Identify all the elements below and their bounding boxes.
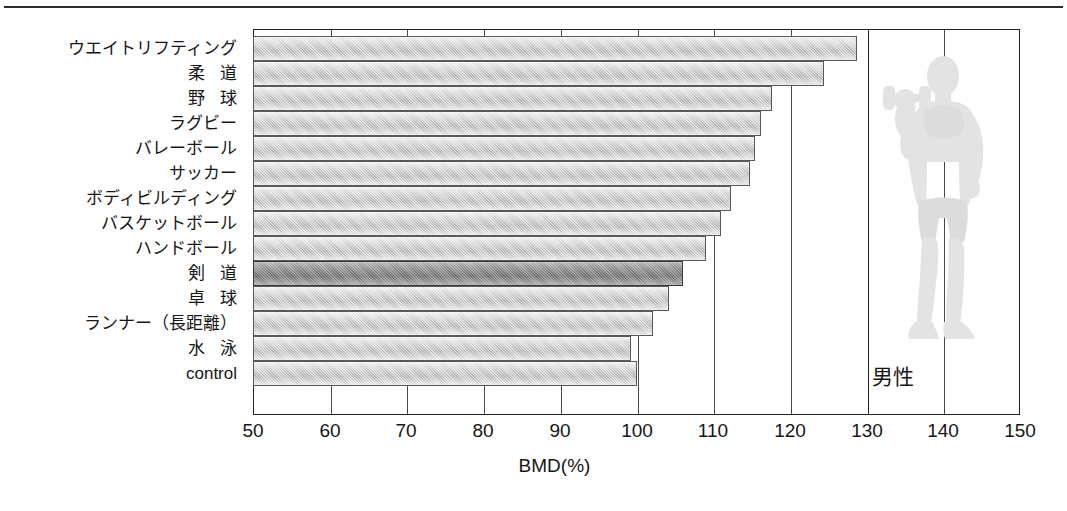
x-axis-title: BMD(%) — [0, 455, 1067, 477]
athlete-illustration-panel — [867, 30, 1019, 414]
x-axis-tick-labels: 5060708090100110120130140150 — [253, 416, 1020, 446]
bar-default — [253, 286, 669, 311]
x-axis-title-text: BMD(%) — [519, 455, 591, 477]
category-label: 卓 球 — [188, 286, 242, 311]
bar-default — [253, 336, 631, 361]
category-label: ボディビルディング — [86, 186, 237, 211]
x-tick-label-140: 140 — [927, 420, 959, 442]
category-label: バレーボール — [135, 136, 237, 161]
chart-page: ウエイトリフティング柔 道野 球ラグビーバレーボールサッカーボディビルディングバ… — [0, 0, 1067, 511]
x-tick-label-110: 110 — [698, 420, 728, 442]
category-label: バスケットボール — [101, 211, 237, 236]
x-tick-label-80: 80 — [472, 420, 493, 442]
category-label: control — [186, 361, 237, 386]
x-tick-label-150: 150 — [1004, 420, 1036, 442]
x-tick-label-130: 130 — [851, 420, 883, 442]
category-label: 柔 道 — [188, 61, 242, 86]
x-tick-label-100: 100 — [621, 420, 653, 442]
x-tick-label-50: 50 — [242, 420, 263, 442]
category-label: 水 泳 — [188, 336, 242, 361]
category-label: ウエイトリフティング — [68, 36, 237, 61]
bar-default — [253, 236, 706, 261]
x-tick-label-120: 120 — [774, 420, 806, 442]
x-tick-label-70: 70 — [395, 420, 416, 442]
bar-default — [253, 186, 731, 211]
category-axis-labels: ウエイトリフティング柔 道野 球ラグビーバレーボールサッカーボディビルディングバ… — [0, 29, 247, 415]
bodybuilder-with-dumbbell-icon — [879, 52, 1007, 352]
bar-highlighted — [253, 261, 683, 286]
category-label: ラグビー — [169, 111, 237, 136]
bar-default — [253, 36, 857, 61]
category-label: 野 球 — [188, 86, 242, 111]
bar-default — [253, 136, 755, 161]
bar-default — [253, 61, 824, 86]
bar-default — [253, 86, 772, 111]
category-label: ランナー（長距離） — [84, 311, 237, 336]
bar-default — [253, 161, 750, 186]
category-label: サッカー — [169, 161, 237, 186]
page-top-rule — [4, 6, 1063, 8]
category-label: 剣 道 — [188, 261, 242, 286]
bar-default — [253, 311, 653, 336]
x-tick-label-60: 60 — [319, 420, 340, 442]
category-label: ハンドボール — [135, 236, 237, 261]
sex-label: 男性 — [872, 360, 915, 390]
bar-default — [253, 111, 761, 136]
x-tick-label-90: 90 — [549, 420, 570, 442]
bar-default — [253, 211, 721, 236]
bar-default — [253, 361, 637, 386]
